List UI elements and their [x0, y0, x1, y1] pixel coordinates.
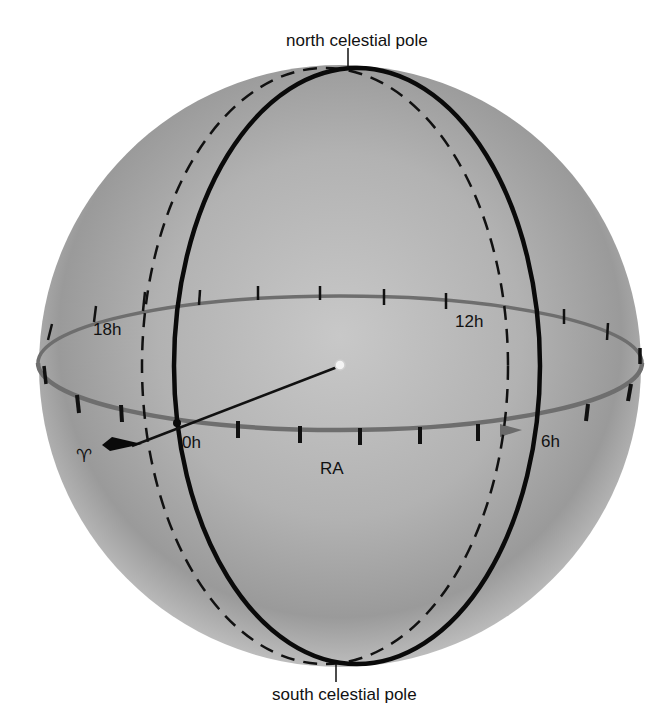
- south-celestial-pole-label: south celestial pole: [272, 685, 417, 704]
- hour-label-12h: 12h: [455, 312, 483, 331]
- ra-axis-label: RA: [320, 459, 344, 478]
- hour-label-0h: 0h: [182, 433, 201, 452]
- hour-label-18h: 18h: [93, 320, 121, 339]
- vernal-equinox-symbol-icon: ♈︎: [76, 446, 92, 466]
- sphere-center-point: [335, 360, 345, 370]
- hour-label-6h: 6h: [541, 432, 560, 451]
- north-celestial-pole-label: north celestial pole: [286, 31, 428, 50]
- celestial-sphere-diagram: north celestial pole south celestial pol…: [0, 0, 670, 728]
- zero-hour-point: [173, 419, 181, 427]
